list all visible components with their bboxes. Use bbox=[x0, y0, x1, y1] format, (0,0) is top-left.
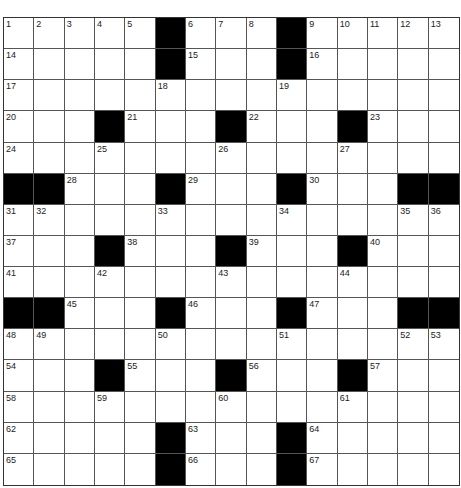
grid-cell[interactable] bbox=[368, 80, 398, 111]
grid-cell[interactable] bbox=[156, 111, 186, 142]
grid-cell[interactable] bbox=[307, 360, 337, 391]
grid-cell[interactable] bbox=[307, 329, 337, 360]
grid-cell[interactable] bbox=[247, 423, 277, 454]
grid-cell[interactable] bbox=[186, 111, 216, 142]
grid-cell[interactable] bbox=[156, 267, 186, 298]
grid-cell[interactable] bbox=[125, 80, 155, 111]
grid-cell[interactable] bbox=[368, 329, 398, 360]
grid-cell[interactable] bbox=[34, 392, 64, 423]
grid-cell[interactable]: 42 bbox=[95, 267, 125, 298]
grid-cell[interactable] bbox=[95, 205, 125, 236]
grid-cell[interactable] bbox=[307, 143, 337, 174]
grid-cell[interactable] bbox=[338, 80, 368, 111]
grid-cell[interactable]: 32 bbox=[34, 205, 64, 236]
grid-cell[interactable] bbox=[429, 236, 459, 267]
grid-cell[interactable]: 34 bbox=[277, 205, 307, 236]
grid-cell[interactable] bbox=[429, 143, 459, 174]
grid-cell[interactable] bbox=[247, 143, 277, 174]
grid-cell[interactable] bbox=[277, 236, 307, 267]
grid-cell[interactable] bbox=[216, 49, 246, 80]
grid-cell[interactable]: 17 bbox=[4, 80, 34, 111]
grid-cell[interactable]: 18 bbox=[156, 80, 186, 111]
grid-cell[interactable] bbox=[34, 111, 64, 142]
grid-cell[interactable]: 6 bbox=[186, 18, 216, 49]
grid-cell[interactable] bbox=[65, 205, 95, 236]
grid-cell[interactable] bbox=[186, 80, 216, 111]
grid-cell[interactable] bbox=[125, 298, 155, 329]
grid-cell[interactable]: 14 bbox=[4, 49, 34, 80]
grid-cell[interactable]: 41 bbox=[4, 267, 34, 298]
grid-cell[interactable]: 2 bbox=[34, 18, 64, 49]
grid-cell[interactable] bbox=[398, 80, 428, 111]
grid-cell[interactable] bbox=[368, 205, 398, 236]
grid-cell[interactable]: 54 bbox=[4, 360, 34, 391]
grid-cell[interactable] bbox=[429, 392, 459, 423]
grid-cell[interactable] bbox=[216, 298, 246, 329]
grid-cell[interactable] bbox=[398, 360, 428, 391]
grid-cell[interactable]: 52 bbox=[398, 329, 428, 360]
grid-cell[interactable] bbox=[277, 143, 307, 174]
grid-cell[interactable] bbox=[34, 423, 64, 454]
grid-cell[interactable]: 7 bbox=[216, 18, 246, 49]
grid-cell[interactable] bbox=[368, 298, 398, 329]
grid-cell[interactable]: 22 bbox=[247, 111, 277, 142]
grid-cell[interactable]: 24 bbox=[4, 143, 34, 174]
grid-cell[interactable]: 56 bbox=[247, 360, 277, 391]
grid-cell[interactable]: 25 bbox=[95, 143, 125, 174]
grid-cell[interactable] bbox=[156, 236, 186, 267]
grid-cell[interactable]: 19 bbox=[277, 80, 307, 111]
grid-cell[interactable]: 9 bbox=[307, 18, 337, 49]
grid-cell[interactable] bbox=[338, 454, 368, 485]
grid-cell[interactable]: 36 bbox=[429, 205, 459, 236]
grid-cell[interactable] bbox=[125, 454, 155, 485]
grid-cell[interactable] bbox=[65, 236, 95, 267]
grid-cell[interactable]: 21 bbox=[125, 111, 155, 142]
grid-cell[interactable]: 38 bbox=[125, 236, 155, 267]
grid-cell[interactable] bbox=[65, 267, 95, 298]
grid-cell[interactable] bbox=[95, 454, 125, 485]
grid-cell[interactable] bbox=[338, 423, 368, 454]
grid-cell[interactable]: 29 bbox=[186, 174, 216, 205]
grid-cell[interactable] bbox=[65, 392, 95, 423]
grid-cell[interactable] bbox=[156, 392, 186, 423]
grid-cell[interactable] bbox=[338, 298, 368, 329]
grid-cell[interactable] bbox=[95, 49, 125, 80]
grid-cell[interactable] bbox=[125, 143, 155, 174]
grid-cell[interactable] bbox=[125, 423, 155, 454]
grid-cell[interactable] bbox=[368, 267, 398, 298]
grid-cell[interactable]: 3 bbox=[65, 18, 95, 49]
grid-cell[interactable] bbox=[338, 174, 368, 205]
grid-cell[interactable] bbox=[398, 267, 428, 298]
grid-cell[interactable]: 39 bbox=[247, 236, 277, 267]
grid-cell[interactable] bbox=[247, 174, 277, 205]
grid-cell[interactable] bbox=[65, 329, 95, 360]
grid-cell[interactable] bbox=[398, 49, 428, 80]
grid-cell[interactable] bbox=[65, 360, 95, 391]
grid-cell[interactable] bbox=[34, 49, 64, 80]
grid-cell[interactable] bbox=[95, 329, 125, 360]
grid-cell[interactable] bbox=[307, 267, 337, 298]
grid-cell[interactable] bbox=[34, 454, 64, 485]
grid-cell[interactable] bbox=[95, 423, 125, 454]
grid-cell[interactable]: 27 bbox=[338, 143, 368, 174]
grid-cell[interactable]: 57 bbox=[368, 360, 398, 391]
grid-cell[interactable]: 23 bbox=[368, 111, 398, 142]
grid-cell[interactable]: 67 bbox=[307, 454, 337, 485]
grid-cell[interactable] bbox=[247, 454, 277, 485]
grid-cell[interactable] bbox=[307, 80, 337, 111]
grid-cell[interactable]: 64 bbox=[307, 423, 337, 454]
grid-cell[interactable] bbox=[338, 329, 368, 360]
grid-cell[interactable]: 53 bbox=[429, 329, 459, 360]
grid-cell[interactable]: 16 bbox=[307, 49, 337, 80]
grid-cell[interactable] bbox=[307, 236, 337, 267]
grid-cell[interactable] bbox=[34, 267, 64, 298]
grid-cell[interactable] bbox=[338, 205, 368, 236]
grid-cell[interactable] bbox=[247, 298, 277, 329]
grid-cell[interactable]: 43 bbox=[216, 267, 246, 298]
grid-cell[interactable] bbox=[156, 360, 186, 391]
grid-cell[interactable] bbox=[247, 80, 277, 111]
grid-cell[interactable] bbox=[65, 454, 95, 485]
grid-cell[interactable]: 40 bbox=[368, 236, 398, 267]
grid-cell[interactable]: 8 bbox=[247, 18, 277, 49]
grid-cell[interactable]: 35 bbox=[398, 205, 428, 236]
